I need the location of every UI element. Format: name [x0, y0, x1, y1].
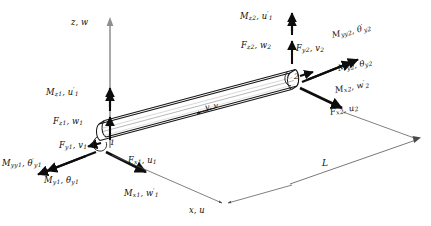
label-force-y2: Fy2, v2: [296, 44, 324, 53]
figure-canvas: z, w y, v x, u 1 2 L Mz1, u′1 Fz1, w1 Fy…: [0, 0, 431, 226]
label-force-y1: Fy1, v1: [59, 141, 87, 150]
node-number-1: 1: [110, 138, 115, 147]
x-axis-line-right: [228, 185, 292, 203]
label-force-x1: Fx1, u1: [128, 156, 157, 165]
force-y1-arrow: [88, 143, 101, 147]
length-label: L: [322, 158, 328, 168]
label-moment-z1: Mz1, u′1: [46, 87, 79, 97]
force-y2-arrow: [300, 72, 313, 76]
diagram-vector-layer: [0, 0, 431, 226]
label-force-z1: Fz1, w1: [53, 117, 83, 126]
axis-label-z: z, w: [71, 18, 88, 26]
axis-label-x: x, u: [189, 206, 205, 214]
length-dimension-leader: [150, 175, 289, 184]
label-moment-z2: Mz2, u′1: [240, 11, 273, 21]
label-force-z2: Fz2, w2: [241, 41, 271, 50]
length-dimension-line: [163, 112, 421, 185]
beam-element: [97, 70, 299, 141]
moment-yy1-arrow: [38, 156, 86, 175]
label-moment-yy1: Myy1, θ′y1: [2, 158, 42, 168]
label-moment-x1: Mx1, w′1: [124, 188, 159, 198]
node-number-2: 2: [294, 72, 299, 81]
label-moment-y1: My1, θy1: [44, 176, 79, 185]
